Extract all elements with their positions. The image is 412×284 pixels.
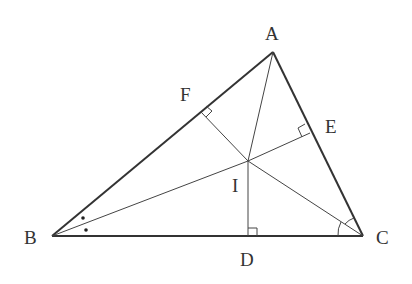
angle-dot-b-upper (81, 216, 85, 220)
label-i: I (232, 175, 238, 196)
angle-dot-b-lower (84, 228, 88, 232)
right-angle-mark-d (248, 228, 257, 236)
label-f: F (180, 84, 191, 105)
label-a: A (265, 23, 279, 44)
angle-arc-c (338, 222, 341, 236)
segment-bi (52, 161, 248, 236)
angle-arc-c-2 (345, 218, 354, 224)
label-d: D (240, 249, 254, 270)
side-ab (52, 52, 273, 236)
segment-if (201, 112, 248, 161)
segment-ie (248, 133, 310, 161)
label-b: B (24, 227, 37, 248)
right-angle-mark-e (298, 124, 305, 137)
label-e: E (325, 116, 337, 137)
segment-ai (248, 52, 273, 161)
label-c: C (376, 227, 389, 248)
triangle-diagram: A B C D E F I (0, 0, 412, 284)
